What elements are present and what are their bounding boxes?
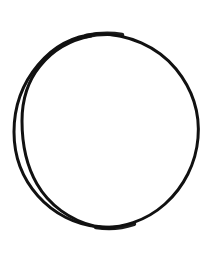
top-merge-blend-stroke	[86, 34, 122, 36]
circle-drawing	[0, 0, 220, 254]
sketch-canvas: Hand-drawn circle A freehand ink circle …	[0, 0, 220, 254]
paper-background	[0, 0, 220, 254]
